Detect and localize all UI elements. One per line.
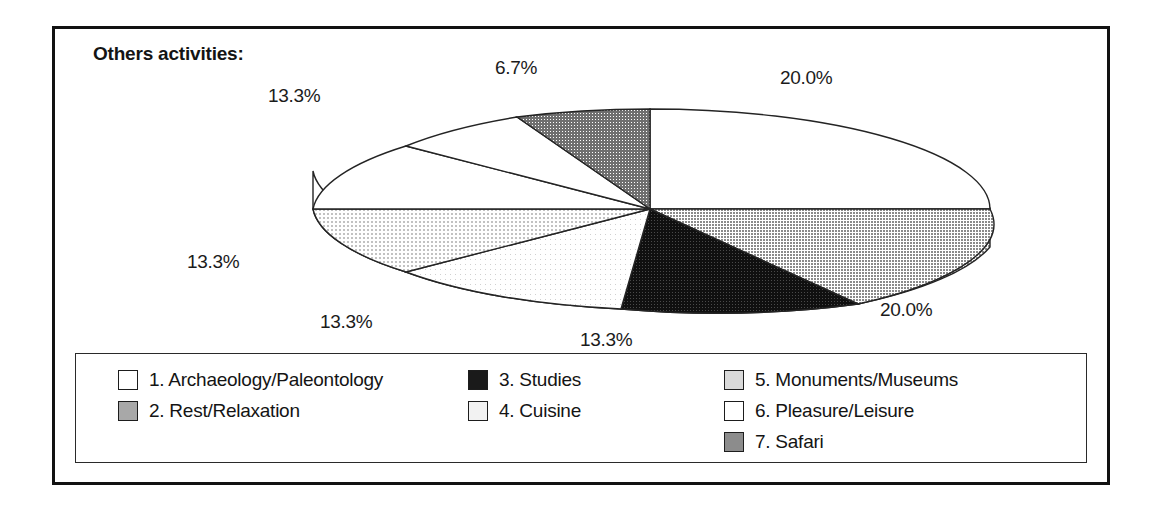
data-label-monuments-museums: 13.3% <box>187 251 239 273</box>
legend-label-archaeology-paleontology: 1. Archaeology/Paleontology <box>149 369 383 391</box>
data-label-cuisine: 13.3% <box>320 311 372 333</box>
legend-swatch-icon-pleasure-leisure <box>724 401 744 421</box>
pie-top-face <box>313 109 994 313</box>
legend-label-safari: 7. Safari <box>755 431 824 453</box>
chart-legend: 1. Archaeology/Paleontology 2. Rest/Rela… <box>75 353 1087 463</box>
legend-item-safari[interactable]: 7. Safari <box>724 426 958 457</box>
legend-label-rest-relaxation: 2. Rest/Relaxation <box>149 400 300 422</box>
legend-swatch-icon-cuisine <box>468 401 488 421</box>
legend-swatch-icon-rest-relaxation <box>118 401 138 421</box>
legend-item-monuments-museums[interactable]: 5. Monuments/Museums <box>724 364 958 395</box>
legend-item-cuisine[interactable]: 4. Cuisine <box>468 395 581 426</box>
legend-swatch-icon-monuments-museums <box>724 370 744 390</box>
legend-item-archaeology-paleontology[interactable]: 1. Archaeology/Paleontology <box>118 364 383 395</box>
data-label-studies: 13.3% <box>580 329 632 351</box>
data-label-safari: 6.7% <box>495 57 537 79</box>
slice-archaeology-paleontology <box>650 109 990 209</box>
legend-item-studies[interactable]: 3. Studies <box>468 364 581 395</box>
legend-swatch-icon-archaeology-paleontology <box>118 370 138 390</box>
data-label-rest-relaxation: 20.0% <box>880 299 932 321</box>
chart-frame: Others activities: <box>52 26 1110 485</box>
legend-column-1: 1. Archaeology/Paleontology 2. Rest/Rela… <box>118 364 383 426</box>
legend-item-pleasure-leisure[interactable]: 6. Pleasure/Leisure <box>724 395 958 426</box>
legend-label-monuments-museums: 5. Monuments/Museums <box>755 369 958 391</box>
legend-item-rest-relaxation[interactable]: 2. Rest/Relaxation <box>118 395 383 426</box>
legend-label-pleasure-leisure: 6. Pleasure/Leisure <box>755 400 914 422</box>
legend-column-2: 3. Studies 4. Cuisine <box>468 364 581 426</box>
legend-label-cuisine: 4. Cuisine <box>499 400 581 422</box>
legend-column-3: 5. Monuments/Museums 6. Pleasure/Leisure… <box>724 364 958 457</box>
pie-chart-svg <box>55 29 1107 359</box>
pie-chart-plot-area: 6.7% 20.0% 20.0% 13.3% 13.3% 13.3% 13.3% <box>55 29 1107 359</box>
legend-swatch-icon-safari <box>724 432 744 452</box>
legend-label-studies: 3. Studies <box>499 369 581 391</box>
data-label-archaeology-paleontology: 20.0% <box>780 67 832 89</box>
data-label-pleasure-leisure: 13.3% <box>268 85 320 107</box>
legend-swatch-icon-studies <box>468 370 488 390</box>
